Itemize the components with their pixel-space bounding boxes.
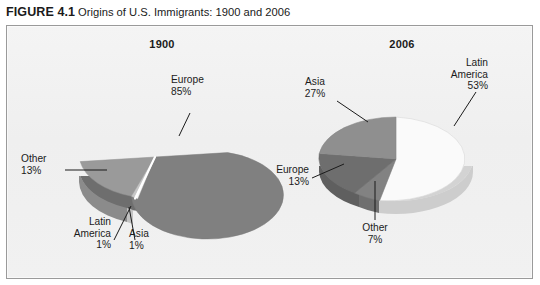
leader-line-asia-2006 bbox=[337, 101, 368, 122]
label-latin-america-2006-value: 53% bbox=[391, 80, 488, 92]
label-europe-2006: Europe 13% bbox=[253, 164, 309, 187]
label-latin-america-2006-name1: Latin bbox=[466, 57, 488, 68]
label-latin-america-2006: Latin America 53% bbox=[391, 57, 488, 92]
label-other-2006-value: 7% bbox=[351, 234, 399, 246]
slice-2006-asia bbox=[319, 117, 396, 159]
figure-title: Origins of U.S. Immigrants: 1900 and 200… bbox=[75, 6, 290, 18]
label-other-2006: Other 7% bbox=[351, 222, 399, 245]
figure-caption: FIGURE 4.1Origins of U.S. Immigrants: 19… bbox=[6, 2, 534, 22]
label-other-2006-name: Other bbox=[362, 222, 387, 233]
leader-line-latin-america-2006 bbox=[454, 92, 476, 126]
label-asia-2006: Asia 27% bbox=[293, 76, 337, 99]
figure-container: FIGURE 4.1Origins of U.S. Immigrants: 19… bbox=[0, 0, 540, 285]
figure-number: FIGURE 4.1 bbox=[6, 5, 75, 19]
label-asia-2006-name: Asia bbox=[305, 76, 325, 87]
label-latin-america-2006-name2: America bbox=[391, 69, 488, 81]
label-europe-2006-name: Europe bbox=[276, 164, 309, 175]
label-europe-2006-value: 13% bbox=[253, 176, 309, 188]
chart-panel: 1900 2006 bbox=[6, 25, 533, 279]
label-asia-2006-value: 27% bbox=[293, 88, 337, 100]
